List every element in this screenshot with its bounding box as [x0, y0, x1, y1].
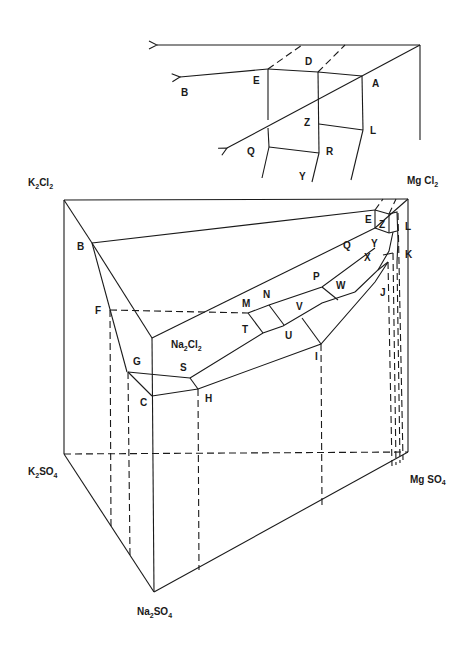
point-label-u: U [285, 330, 292, 341]
inset-leg-l [351, 130, 363, 180]
edge-z-top [375, 210, 389, 214]
inset-diagonal-arrow [227, 45, 420, 148]
main-prism: B F G C S H M N T U V P W Q I E Z Y X L … [28, 175, 446, 619]
dash-e-top [375, 199, 383, 210]
dash-f-m [110, 310, 248, 313]
inset-label-b: B [181, 87, 188, 98]
inset-d-vertical [318, 72, 319, 153]
curve-g-c [128, 372, 152, 396]
dash-g-vertical [128, 372, 130, 556]
inset-label-r: R [326, 146, 334, 157]
point-label-w: W [336, 280, 346, 291]
inset-q-r-edge [269, 147, 319, 153]
inset-label-q: Q [247, 146, 255, 157]
edge-k2so4-mgso4-hidden [64, 452, 408, 454]
point-label-j: J [380, 287, 386, 298]
point-label-p: P [313, 271, 320, 282]
point-label-l: L [405, 221, 411, 232]
inset-z-l-edge [319, 124, 363, 130]
phase-diagram: B E D A Z L Q R Y [0, 0, 472, 647]
inset-label-y: Y [299, 171, 306, 182]
point-label-i: I [315, 351, 318, 362]
edge-na2cl2-na2so4 [152, 338, 154, 592]
inset-diagram: B E D A Z L Q R Y [157, 45, 420, 182]
point-label-c: C [140, 397, 147, 408]
point-label-x: X [364, 252, 371, 263]
point-label-s: S [180, 362, 187, 373]
edge-k2cl2-b [64, 200, 92, 243]
inset-label-e: E [253, 75, 260, 86]
inset-dash-e [268, 45, 302, 69]
inset-e-vertical-lower [268, 128, 269, 147]
dash-f-vertical [110, 310, 111, 528]
point-label-q: Q [343, 240, 351, 251]
point-label-f: F [95, 305, 101, 316]
inset-label-a: A [372, 78, 379, 89]
point-label-t: T [242, 324, 248, 335]
point-label-e: E [365, 214, 372, 225]
curve-h-j [198, 262, 388, 389]
corner-label-k2so4: K2SO4 [28, 466, 58, 479]
edge-na2so4-mgso4 [154, 452, 408, 592]
corner-label-mgcl2: Mg Cl2 [407, 175, 438, 188]
curve-c-h [152, 389, 198, 396]
point-label-g: G [133, 356, 141, 367]
inset-dash-d [318, 45, 345, 72]
edge-k2so4-na2so4 [64, 454, 154, 592]
dash-z-top [389, 199, 396, 214]
curve-b-e [92, 210, 375, 243]
corner-label-mgso4: Mg SO4 [410, 474, 446, 486]
edge-b-na2cl2 [92, 243, 152, 338]
inset-a-vertical [362, 76, 363, 130]
point-label-h: H [205, 393, 212, 404]
corner-label-na2so4: Na2SO4 [137, 606, 172, 619]
corner-label-k2cl2: K2Cl2 [28, 177, 53, 190]
inset-leg-r [312, 153, 319, 182]
point-label-k: K [405, 249, 413, 260]
point-label-n: N [263, 289, 270, 300]
edge-k2cl2-mgcl2 [64, 199, 408, 200]
point-label-y: Y [371, 238, 378, 249]
point-label-b: B [77, 241, 84, 252]
curve-s-w [190, 292, 355, 378]
dash-i-vertical [321, 344, 322, 505]
dash-x-vertical [393, 253, 396, 465]
point-label-m: M [242, 298, 250, 309]
dash-j-vertical [388, 262, 392, 466]
point-label-z: Z [379, 219, 385, 230]
corner-label-na2cl2: Na2Cl2 [171, 339, 202, 352]
dash-l-vertical [398, 213, 403, 460]
inset-label-l: L [370, 125, 376, 136]
inset-label-z: Z [304, 117, 310, 128]
dash-h-vertical [198, 389, 199, 570]
edge-n-u [269, 305, 284, 325]
point-label-v: V [296, 301, 303, 312]
inset-leg-q [262, 147, 269, 178]
edge-m-t [248, 313, 263, 333]
inset-eda-edge [268, 69, 362, 76]
curve-s-h [190, 378, 198, 389]
inset-label-d: D [305, 56, 312, 67]
edge-v-i [302, 318, 321, 344]
